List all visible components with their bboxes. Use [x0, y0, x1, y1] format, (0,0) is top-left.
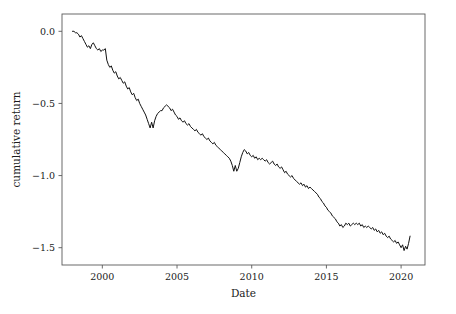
x-tick-label: 2005	[165, 271, 189, 282]
y-tick-label: −1.5	[32, 242, 55, 253]
y-axis-tick-labels: 0.0−0.5−1.0−1.5	[32, 26, 55, 253]
x-axis-title: Date	[231, 287, 256, 299]
y-tick-label: 0.0	[40, 26, 55, 37]
x-axis-ticks	[102, 265, 401, 269]
x-tick-label: 2015	[314, 271, 338, 282]
line-chart: 20002005201020152020 0.0−0.5−1.0−1.5 Dat…	[0, 0, 456, 314]
x-tick-label: 2000	[90, 271, 114, 282]
cumulative-return-line	[72, 31, 410, 250]
axes-spines	[62, 14, 425, 265]
x-tick-label: 2010	[240, 271, 264, 282]
chart-figure: 20002005201020152020 0.0−0.5−1.0−1.5 Dat…	[0, 0, 456, 314]
x-tick-label: 2020	[389, 271, 413, 282]
y-tick-label: −1.0	[32, 170, 55, 181]
x-axis-tick-labels: 20002005201020152020	[90, 271, 413, 282]
y-axis-ticks	[59, 31, 63, 247]
y-axis-title: cumulative return	[10, 91, 22, 187]
plot-frame	[62, 14, 425, 265]
y-tick-label: −0.5	[32, 98, 55, 109]
